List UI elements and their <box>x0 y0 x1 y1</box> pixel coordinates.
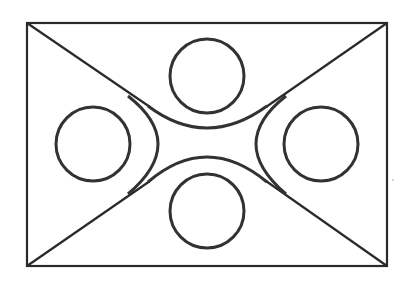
speck-dot <box>392 179 394 181</box>
top-left-diagonal <box>27 23 150 107</box>
top-circle <box>170 39 244 113</box>
left-circle <box>56 107 130 181</box>
geometric-diagram <box>0 0 407 283</box>
bottom-left-diagonal <box>27 181 150 266</box>
bottom-concave-arc <box>148 157 267 182</box>
top-concave-arc <box>148 106 267 128</box>
top-right-diagonal <box>266 23 387 107</box>
bottom-circle <box>170 174 244 248</box>
right-circle <box>284 107 358 181</box>
